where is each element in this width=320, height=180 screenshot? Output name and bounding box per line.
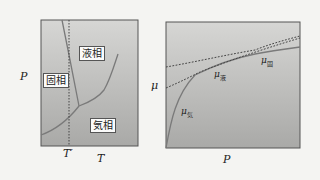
mu-p-diagram bbox=[166, 22, 300, 148]
x-axis-label-p: P bbox=[223, 153, 230, 166]
phase-label-gas: 気相 bbox=[90, 118, 116, 133]
x-axis-label-t: T bbox=[97, 152, 104, 165]
y-axis-label-mu: μ bbox=[151, 79, 158, 92]
phase-label-liquid: 液相 bbox=[79, 46, 105, 61]
y-axis-label-p: P bbox=[20, 70, 27, 83]
phase-label-solid: 固相 bbox=[43, 73, 69, 88]
t-prime-label: T′ bbox=[63, 147, 73, 160]
mu-solid-label: μ固 bbox=[261, 55, 273, 68]
mu-gas-label: μ気 bbox=[181, 106, 193, 119]
mu-liquid-label: μ液 bbox=[214, 69, 226, 82]
